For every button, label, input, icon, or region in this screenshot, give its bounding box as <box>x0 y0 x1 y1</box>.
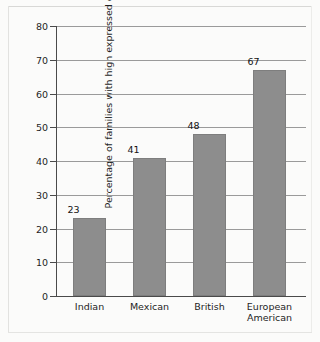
bar-value-indian: 23 <box>51 205 97 215</box>
y-tick-label-40: 40 <box>16 157 48 167</box>
figure-frame-bottom <box>8 332 312 333</box>
bar-value-british: 48 <box>171 121 217 131</box>
bar-british[interactable] <box>193 134 226 296</box>
bar-european-american[interactable] <box>253 70 286 296</box>
gridline-80 <box>56 26 306 27</box>
x-category-label-european-american-line2: American <box>234 312 306 323</box>
figure-frame-top <box>8 6 312 7</box>
y-tick-label-70: 70 <box>16 56 48 66</box>
y-tick-label-20: 20 <box>16 225 48 235</box>
y-axis-line <box>56 26 57 297</box>
bar-mexican[interactable] <box>133 158 166 296</box>
x-category-label-british-line1: British <box>194 301 224 312</box>
x-category-label-indian-line1: Indian <box>75 301 104 312</box>
y-tick-label-80: 80 <box>16 22 48 32</box>
bar-value-mexican: 41 <box>111 145 157 155</box>
bar-indian[interactable] <box>73 218 106 296</box>
bar-chart-figure: Percentage of families with high express… <box>0 0 320 342</box>
bar-value-european-american: 67 <box>231 57 277 67</box>
y-tick-label-60: 60 <box>16 90 48 100</box>
x-category-label-mexican-line1: Mexican <box>130 301 169 312</box>
figure-frame-left <box>8 6 9 332</box>
figure-frame-right <box>311 6 312 332</box>
y-tick-label-50: 50 <box>16 123 48 133</box>
plot-area <box>56 26 306 296</box>
x-category-label-european-american-line1: European <box>234 301 306 312</box>
x-category-label-european-american: European American <box>234 301 306 323</box>
y-tick-label-0: 0 <box>16 292 48 302</box>
y-axis-tick-labels: 80 70 60 50 40 30 20 10 0 <box>10 0 48 342</box>
y-tick-label-10: 10 <box>16 258 48 268</box>
x-axis-line <box>56 296 306 297</box>
y-tick-label-30: 30 <box>16 191 48 201</box>
